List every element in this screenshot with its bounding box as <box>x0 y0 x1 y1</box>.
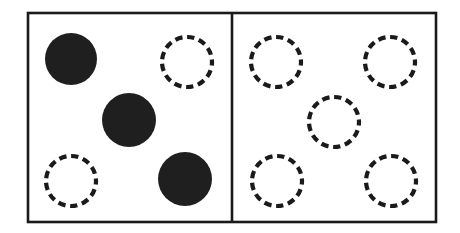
filled-circle-left-filled-bottom-right <box>158 152 212 206</box>
figure-container <box>0 0 460 233</box>
filled-circle-left-filled-top-left <box>45 33 97 85</box>
filled-circle-left-filled-middle <box>102 93 156 147</box>
two-panel-circle-diagram <box>0 0 460 233</box>
